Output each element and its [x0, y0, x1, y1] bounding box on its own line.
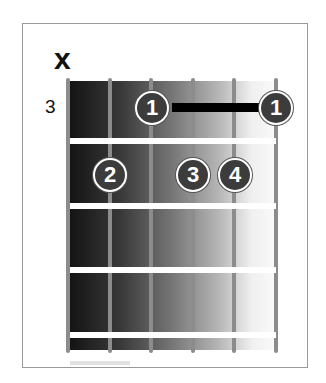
finger-dot: 2: [93, 158, 127, 192]
finger-dot: 4: [218, 158, 252, 192]
base-fret-label: 3: [45, 96, 56, 118]
finger-dot: 1: [135, 91, 169, 125]
fret-line-3: [70, 267, 276, 273]
fretboard: [70, 81, 276, 350]
barre-bar: [172, 103, 262, 112]
cropped-caption: [70, 361, 130, 365]
muted-string-marker: x: [54, 44, 71, 74]
finger-dot: 3: [176, 158, 210, 192]
string-2: [108, 78, 112, 353]
fret-line-2: [70, 203, 276, 209]
finger-dot: 1: [259, 91, 293, 125]
fret-line-4: [70, 332, 276, 338]
string-1: [66, 78, 70, 353]
string-5: [232, 78, 236, 353]
string-4: [191, 78, 195, 353]
fret-line-1: [70, 138, 276, 144]
